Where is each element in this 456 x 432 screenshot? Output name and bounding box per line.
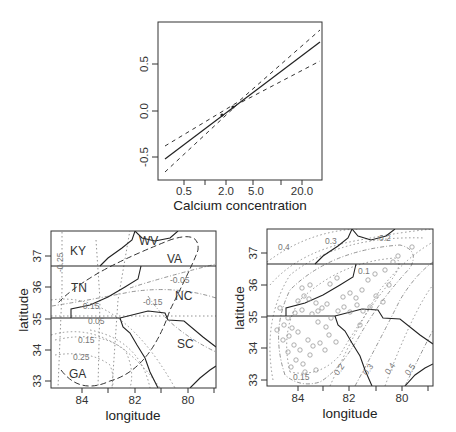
contour-label: 0.4 [382, 361, 397, 377]
x-tick-label: 82 [129, 394, 142, 406]
y-tick-label: -0.5 [138, 147, 150, 167]
figure: 0.5 0.0 -0.5 0.5 2.0 5.0 20.0 Calcium co… [0, 0, 456, 432]
y-tick-label: 36 [31, 281, 43, 294]
x-tick-label: 20.0 [291, 185, 313, 197]
knot-point [231, 105, 234, 108]
contour-label: 0.2 [379, 233, 391, 243]
estimate-line [165, 42, 320, 159]
x-tick-label: 0.5 [176, 185, 192, 197]
contour-label: -0.15 [80, 301, 100, 311]
y-axis-label: latitude [16, 288, 31, 332]
x-tick-label: 84 [76, 394, 89, 406]
state-label-nc: NC [175, 289, 193, 303]
x-tick-label: 84 [292, 392, 305, 404]
x-axis-label: longitude [323, 406, 378, 421]
y-tick-label: 0.0 [138, 103, 150, 119]
state-label-ky: KY [70, 244, 86, 258]
contour-label: 0.15 [293, 372, 310, 382]
y-tick-label: 33 [31, 375, 43, 388]
x-tick-label: 2.0 [218, 185, 234, 197]
y-tick-label: 36 [247, 279, 259, 292]
contour-label: 0.3 [325, 236, 337, 246]
contour-label: 0.1 [358, 266, 370, 276]
x-tick-label: 80 [182, 394, 195, 406]
y-tick-label: 37 [31, 250, 43, 263]
y-tick-label: 34 [31, 343, 43, 356]
y-tick-label: 0.5 [138, 56, 150, 72]
top-plot-frame [158, 22, 322, 180]
y-tick-label: 37 [247, 247, 259, 260]
contour-label: 0.05 [88, 316, 105, 326]
y-tick-label: 35 [247, 311, 259, 324]
contour-label: 0.25 [73, 352, 90, 362]
x-tick-label: 82 [343, 392, 356, 404]
state-label-wv: WV [139, 234, 158, 248]
state-label-ga: GA [69, 367, 86, 381]
contour-label: 0.15 [78, 335, 95, 345]
x-tick-label: 80 [396, 392, 409, 404]
contour-label: -0.15 [143, 297, 163, 307]
y-tick-label: 34 [247, 341, 259, 354]
x-axis-label: longitude [106, 408, 161, 423]
contour-label: -0.25 [55, 252, 65, 272]
y-tick-label: 33 [247, 374, 259, 387]
state-label-tn: TN [71, 281, 87, 295]
x-axis-label: Calcium concentration [173, 198, 307, 213]
contour-label: -0.05 [170, 275, 190, 285]
knot-point [220, 113, 223, 116]
state-label-sc: SC [177, 337, 194, 351]
y-axis-label: latitude [232, 286, 247, 330]
lower-band-line [165, 61, 320, 172]
state-label-va: VA [167, 252, 182, 266]
contour-label: 0.2 [331, 362, 346, 378]
left-map: KY WV VA TN NC SC GA -0.25 -0.05 -0.15 -… [16, 230, 220, 423]
y-tick-label: 35 [31, 313, 43, 326]
contour-label: 0.4 [278, 242, 290, 252]
upper-band-line [165, 30, 320, 146]
right-map: 0.4 0.3 0.2 0.1 0.15 0.2 0.3 0.4 0.5 37 … [232, 229, 433, 421]
top-plot: 0.5 0.0 -0.5 0.5 2.0 5.0 20.0 Calcium co… [138, 22, 322, 213]
x-tick-label: 5.0 [248, 185, 264, 197]
